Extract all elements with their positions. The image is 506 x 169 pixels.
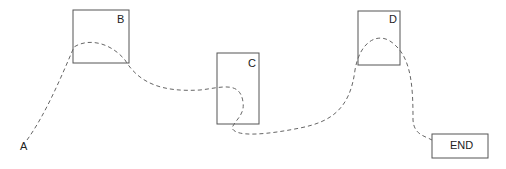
node-d-label: D [389,14,397,25]
node-b-label: B [117,14,124,25]
start-label-a: A [20,141,27,152]
node-c-label: C [248,58,256,69]
node-end-label: END [450,140,473,151]
diagram-canvas [0,0,506,169]
